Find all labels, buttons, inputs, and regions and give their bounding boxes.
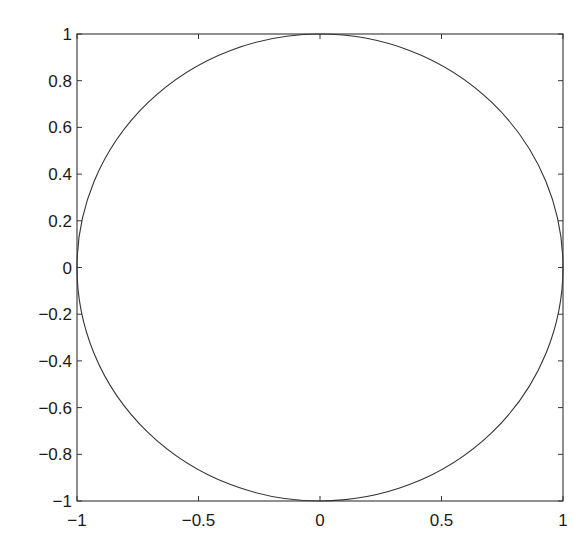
y-tick-label: 0.4 — [48, 165, 72, 184]
x-tick-label: 0.5 — [430, 511, 454, 530]
y-tick-label: 0.6 — [48, 118, 72, 137]
y-tick-label: 0.8 — [48, 72, 72, 91]
y-tick-label: 0 — [63, 259, 72, 278]
axes-box — [77, 34, 563, 501]
y-tick-label: −0.4 — [38, 352, 72, 371]
y-tick-label: −0.8 — [38, 445, 72, 464]
y-axis-ticks: 10.80.60.40.20−0.2−0.4−0.6−0.8−1 — [38, 25, 563, 511]
y-tick-label: −0.6 — [38, 399, 72, 418]
x-tick-label: −0.5 — [182, 511, 216, 530]
series-line-0 — [77, 34, 563, 501]
y-tick-label: −0.2 — [38, 305, 72, 324]
y-tick-label: 1 — [63, 25, 72, 44]
x-tick-label: 1 — [558, 511, 567, 530]
x-tick-label: −1 — [67, 511, 86, 530]
x-tick-label: 0 — [315, 511, 324, 530]
y-tick-label: 0.2 — [48, 212, 72, 231]
plot-area — [77, 34, 563, 501]
y-tick-label: −1 — [53, 492, 72, 511]
chart-canvas: −1−0.500.51 10.80.60.40.20−0.2−0.4−0.6−0… — [0, 0, 588, 552]
